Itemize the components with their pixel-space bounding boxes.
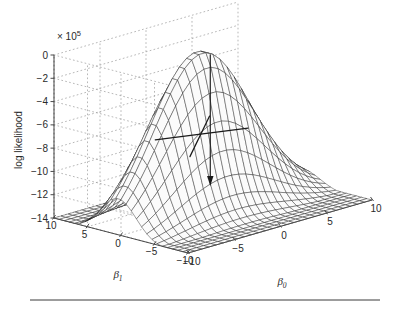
- x-tick-label: −10: [184, 256, 201, 267]
- z-tick-label: −4: [37, 96, 49, 107]
- z-tick-label: −2: [37, 73, 49, 84]
- z-tick-label: −8: [37, 143, 49, 154]
- x-tick-label: −5: [232, 243, 244, 254]
- z-tick-label: −6: [37, 119, 49, 130]
- x-tick-label: 10: [370, 203, 382, 214]
- surface-plot: 0−2−4−6−8−10−12−14× 105log likelihood105…: [0, 0, 407, 310]
- z-tick-label: 0: [42, 50, 48, 61]
- z-axis-title: log likelihood: [13, 111, 24, 169]
- y-tick-label: 10: [45, 220, 57, 231]
- y-tick-label: −5: [146, 246, 158, 257]
- y-tick-label: 0: [115, 238, 121, 249]
- z-tick-label: −12: [31, 189, 48, 200]
- z-tick-label: −10: [31, 166, 48, 177]
- figure-container: 0−2−4−6−8−10−12−14× 105log likelihood105…: [0, 0, 407, 310]
- y-tick-label: 5: [82, 229, 88, 240]
- x-tick-label: 0: [281, 230, 287, 241]
- x-tick-label: 5: [327, 216, 333, 227]
